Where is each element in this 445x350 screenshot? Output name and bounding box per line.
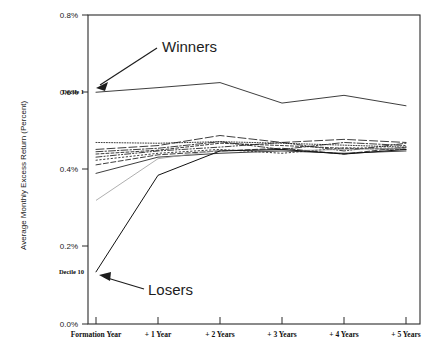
line-chart: 0.8% 0.6% 0.4% 0.2% 0.0% Average Monthly… <box>0 0 445 350</box>
series-line-decile-9 <box>96 151 406 173</box>
series-label-decile-1: Decile 1 <box>62 88 84 95</box>
winners-annotation-label: Winners <box>162 38 217 55</box>
series-line-decile-10 <box>96 149 406 271</box>
series-line-decile-1 <box>96 83 406 106</box>
y-tick-label-0: 0.8% <box>60 11 78 20</box>
series-line-decile-3 <box>96 136 406 150</box>
winners-arrow-icon <box>96 48 157 91</box>
x-tick-label-2: + 2 Years <box>205 330 234 339</box>
x-axis-ticks <box>96 317 406 324</box>
series-group <box>96 83 406 272</box>
x-tick-label-4: + 4 Years <box>329 330 358 339</box>
y-axis-title: Average Monthly Excess Return (Percent) <box>19 100 28 250</box>
x-tick-label-3: + 3 Years <box>267 330 296 339</box>
losers-arrow-icon <box>99 272 144 289</box>
y-tick-label-3: 0.2% <box>60 242 78 251</box>
x-tick-label-1: + 1 Year <box>145 330 172 339</box>
y-tick-label-4: 0.0% <box>60 320 78 329</box>
x-tick-label-0: Formation Year <box>71 330 122 339</box>
losers-annotation-label: Losers <box>148 281 193 298</box>
series-line-decile-9b <box>96 148 406 200</box>
x-tick-label-5: + 5 Years <box>391 330 420 339</box>
plot-frame <box>88 15 420 324</box>
y-tick-label-2: 0.4% <box>60 165 78 174</box>
series-label-decile-10: Decile 10 <box>59 268 84 275</box>
y-axis-ticks <box>82 15 88 324</box>
chart-figure: 0.8% 0.6% 0.4% 0.2% 0.0% Average Monthly… <box>0 0 445 350</box>
